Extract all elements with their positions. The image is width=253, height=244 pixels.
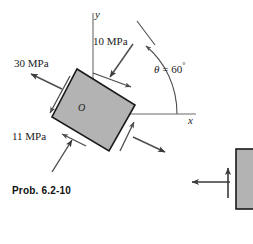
- angle-equals-sign: =: [162, 63, 168, 75]
- shear-stress-11mpa-arrow: [52, 140, 72, 172]
- angle-reference-tick: [137, 21, 155, 45]
- angle-arc-path: [146, 46, 177, 114]
- stress-element-figure: y x O 10 MPa 30 MPa 11 MPa θ = 60° Prob.…: [0, 0, 253, 244]
- adjacent-figure-fragment: [192, 149, 253, 209]
- normal-stress-10mpa-arrow: [110, 44, 133, 77]
- origin-label: O: [78, 103, 85, 113]
- stress-element-square: [52, 69, 135, 151]
- stress-label-11mpa: 11 MPa: [12, 131, 46, 142]
- angle-label: θ = 60°: [154, 62, 185, 75]
- element-face: [52, 69, 135, 151]
- angle-value: 60: [171, 63, 182, 75]
- problem-caption: Prob. 6.2-10: [12, 186, 71, 196]
- x-axis-label: x: [188, 115, 193, 126]
- adjacent-element-face: [236, 149, 253, 209]
- normal-stress-right-arrow: [133, 137, 165, 152]
- normal-stress-30mpa-arrow: [31, 74, 62, 89]
- stress-label-30mpa: 30 MPa: [14, 58, 49, 69]
- y-axis-label: y: [95, 9, 100, 20]
- angle-unit: °: [182, 61, 185, 70]
- stress-label-10mpa: 10 MPa: [93, 36, 128, 47]
